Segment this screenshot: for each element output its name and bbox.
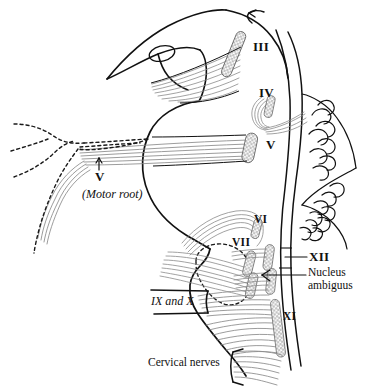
label-nerve-xii: XII bbox=[309, 250, 329, 264]
label-nerve-ix-and-x: IX and X bbox=[151, 295, 194, 308]
figure-background bbox=[0, 0, 367, 388]
label-nerve-vi: VI bbox=[254, 213, 267, 225]
label-nerve-xi: XI bbox=[283, 310, 296, 322]
brainstem-cranial-nerve-diagram bbox=[0, 0, 367, 388]
label-nucleus-ambiguus-line1: Nucleus bbox=[308, 266, 346, 279]
label-nerve-v-root: V bbox=[95, 170, 105, 184]
label-motor-root-note: (Motor root) bbox=[82, 188, 143, 201]
label-cervical-nerves: Cervical nerves bbox=[148, 356, 220, 368]
anatomical-figure: III IV V V (Motor root) VI VII IX and X … bbox=[0, 0, 367, 388]
label-nucleus-ambiguus-line2: ambiguus bbox=[308, 279, 353, 292]
label-nerve-vii: VII bbox=[232, 236, 250, 248]
label-nerve-iii: III bbox=[253, 40, 269, 54]
label-nerve-v-nucleus: V bbox=[266, 138, 276, 152]
label-nerve-iv: IV bbox=[259, 86, 274, 100]
